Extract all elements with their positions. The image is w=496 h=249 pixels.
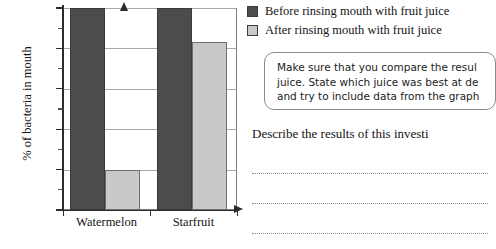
y-axis-arrow-icon — [120, 2, 128, 11]
legend-swatch-before-icon — [247, 6, 258, 17]
bar-starfruit-before — [157, 8, 192, 210]
x-axis-label-starfruit: Starfruit — [142, 215, 245, 230]
chart-legend: Before rinsing mouth with fruit juice Af… — [247, 2, 481, 40]
question-prompt: Describe the results of this investi — [252, 126, 429, 142]
y-tick-80 — [56, 48, 63, 49]
y-tick-100 — [56, 7, 63, 8]
answer-line-3[interactable] — [252, 231, 488, 234]
y-minor-tick-90 — [58, 28, 63, 29]
bar-chart: % of bacteria in mouth 0%20%40%60%80%100… — [0, 0, 246, 249]
x-axis-arrow-icon — [234, 205, 243, 213]
bar-watermelon-after — [105, 170, 140, 210]
y-tick-20 — [56, 169, 63, 170]
bar-starfruit-after — [192, 42, 227, 210]
legend-label-after: After rinsing mouth with fruit juice — [265, 23, 442, 38]
answer-line-1[interactable] — [252, 171, 488, 174]
legend-label-before: Before rinsing mouth with fruit juice — [265, 4, 449, 19]
y-minor-tick-30 — [58, 149, 63, 150]
y-axis-title: % of bacteria in mouth — [20, 14, 35, 194]
answer-line-2[interactable] — [252, 201, 488, 204]
y-tick-0 — [56, 209, 63, 210]
bar-watermelon-before — [70, 8, 105, 210]
y-tick-60 — [56, 88, 63, 89]
instruction-callout-box: Make sure that you compare the resul jui… — [264, 52, 496, 110]
legend-item-before: Before rinsing mouth with fruit juice — [247, 2, 481, 21]
legend-item-after: After rinsing mouth with fruit juice — [247, 21, 481, 40]
callout-line-3: and try to include data from the graph — [277, 89, 495, 104]
callout-line-1: Make sure that you compare the resul — [277, 60, 495, 75]
legend-swatch-after-icon — [247, 25, 258, 36]
y-minor-tick-50 — [58, 108, 63, 109]
callout-line-2: juice. State which juice was best at de — [277, 75, 495, 90]
y-minor-tick-70 — [58, 68, 63, 69]
y-tick-40 — [56, 129, 63, 130]
y-minor-tick-10 — [58, 189, 63, 190]
